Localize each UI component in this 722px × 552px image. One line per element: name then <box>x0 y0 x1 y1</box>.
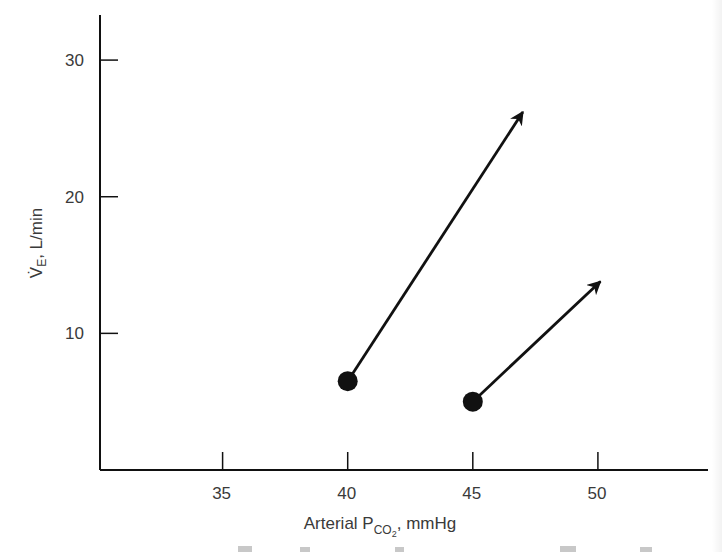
y-tick-label: 20 <box>65 188 84 207</box>
x-tick-label: 50 <box>587 484 606 503</box>
x-axis-label: Arterial PCO2, mmHg <box>304 514 456 539</box>
y-axis-label: V̇E, L/min <box>27 208 49 278</box>
x-tick-label: 35 <box>212 484 231 503</box>
cropped-caption-fragments <box>238 546 652 552</box>
point-2-arrow <box>473 281 601 401</box>
x-tick-label: 45 <box>462 484 481 503</box>
chart-svg: 35404550 102030 Arterial PCO2, mmHg V̇E,… <box>0 0 722 552</box>
y-tick-label: 30 <box>65 51 84 70</box>
y-tick-label: 10 <box>65 324 84 343</box>
point-2-marker <box>463 392 483 412</box>
x-tick-label: 40 <box>337 484 356 503</box>
chart-figure: 35404550 102030 Arterial PCO2, mmHg V̇E,… <box>0 0 722 552</box>
point-1-arrow <box>348 112 523 381</box>
point-1-marker <box>338 371 358 391</box>
